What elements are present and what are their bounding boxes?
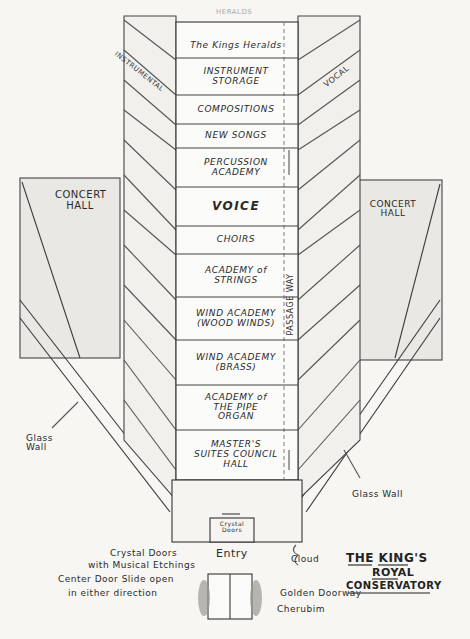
room-kings-heralds: The Kings Heralds xyxy=(176,34,296,58)
room-wind-academy-woodwinds: WIND ACADEMY (WOOD WINDS) xyxy=(176,297,296,340)
left-glass-wall-label: Glass Wall xyxy=(26,434,56,453)
right-concert-hall-label: CONCERT HALL xyxy=(368,200,418,219)
left-concert-hall-label: CONCERT HALL xyxy=(55,190,105,211)
right-glass-wall-label: Glass Wall xyxy=(352,490,403,499)
title-line-2: ROYAL xyxy=(372,567,414,579)
crystal-doors-note-3: Center Door Slide open xyxy=(58,575,174,584)
room-masters-suites-council-hall: MASTER'S SUITES COUNCIL HALL xyxy=(176,430,296,480)
crystal-doors-note-4: in either direction xyxy=(68,589,157,598)
room-wind-academy-brass: WIND ACADEMY (BRASS) xyxy=(176,340,296,385)
title-line-1: THE KING'S xyxy=(346,552,428,565)
room-instrument-storage: INSTRUMENT STORAGE xyxy=(176,60,296,94)
room-pipe-organ-academy: ACADEMY of THE PIPE ORGAN xyxy=(176,385,296,430)
room-academy-of-strings: ACADEMY of STRINGS xyxy=(176,254,296,297)
crystal-doors-box-label: Crystal Doors xyxy=(212,521,252,534)
crystal-doors-note-2: with Musical Etchings xyxy=(88,561,195,570)
room-voice: VOICE xyxy=(176,187,296,226)
room-new-songs: NEW SONGS xyxy=(176,124,296,148)
cloud-label: Cloud xyxy=(291,555,319,564)
golden-doorway-label: Golden Doorway xyxy=(280,589,362,598)
entry-label: Entry xyxy=(216,548,248,560)
room-choirs: CHOIRS xyxy=(176,226,296,254)
room-compositions: COMPOSITIONS xyxy=(176,95,296,124)
room-percussion-academy: PERCUSSION ACADEMY xyxy=(176,148,296,187)
cherubim-label: Cherubim xyxy=(277,605,325,614)
passage-way-label: PASSAGE WAY xyxy=(286,274,295,336)
crystal-doors-note-1: Crystal Doors xyxy=(110,549,177,558)
heralds-faint-label: HERALDS xyxy=(216,9,252,16)
